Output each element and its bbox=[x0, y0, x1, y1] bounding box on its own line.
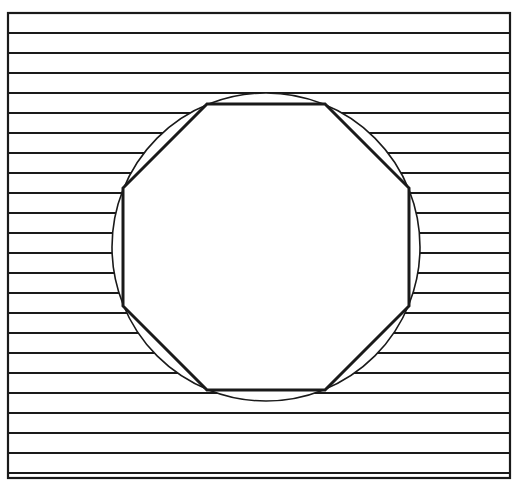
figure-root bbox=[0, 0, 518, 496]
geometry-diagram-svg bbox=[0, 0, 518, 496]
inscribed-octagon bbox=[123, 104, 409, 390]
